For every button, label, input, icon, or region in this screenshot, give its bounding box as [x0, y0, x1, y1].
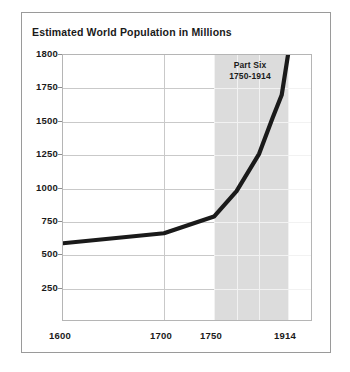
y-axis-tick-label: 1500: [36, 115, 58, 126]
y-axis-tick-mark: [58, 288, 62, 289]
y-axis-tick-label: 1000: [36, 182, 58, 193]
x-axis-tick-label: 1600: [49, 330, 71, 341]
y-axis-tick-label: 250: [42, 282, 58, 293]
y-axis-tick-mark: [58, 188, 62, 189]
y-axis-tick-mark: [58, 121, 62, 122]
population-line-series: [63, 55, 311, 320]
y-axis-tick-label: 1250: [36, 148, 58, 159]
y-axis-tick-mark: [58, 254, 62, 255]
y-axis-tick-mark: [58, 221, 62, 222]
page-title: Estimated World Population in Millions: [32, 26, 232, 38]
band-annotation: Part Six 1750-1914: [213, 60, 287, 83]
band-annotation-range: 1750-1914: [213, 71, 287, 82]
plot-area: [62, 54, 312, 321]
x-axis-tick-label: 1914: [274, 330, 296, 341]
y-axis-tick-label: 1800: [36, 48, 58, 59]
y-axis-tick-label: 500: [42, 248, 58, 259]
y-axis-tick-mark: [58, 54, 62, 55]
plot-inner: [63, 55, 311, 320]
y-axis-tick-mark: [58, 154, 62, 155]
y-axis-tick-label: 1750: [36, 81, 58, 92]
y-axis-tick-label: 750: [42, 215, 58, 226]
x-axis-tick-label: 1700: [150, 330, 172, 341]
y-axis-tick-mark: [58, 87, 62, 88]
x-axis-tick-label: 1750: [200, 330, 222, 341]
band-annotation-title: Part Six: [213, 60, 287, 71]
chart-figure: Estimated World Population in Millions P…: [0, 0, 350, 372]
